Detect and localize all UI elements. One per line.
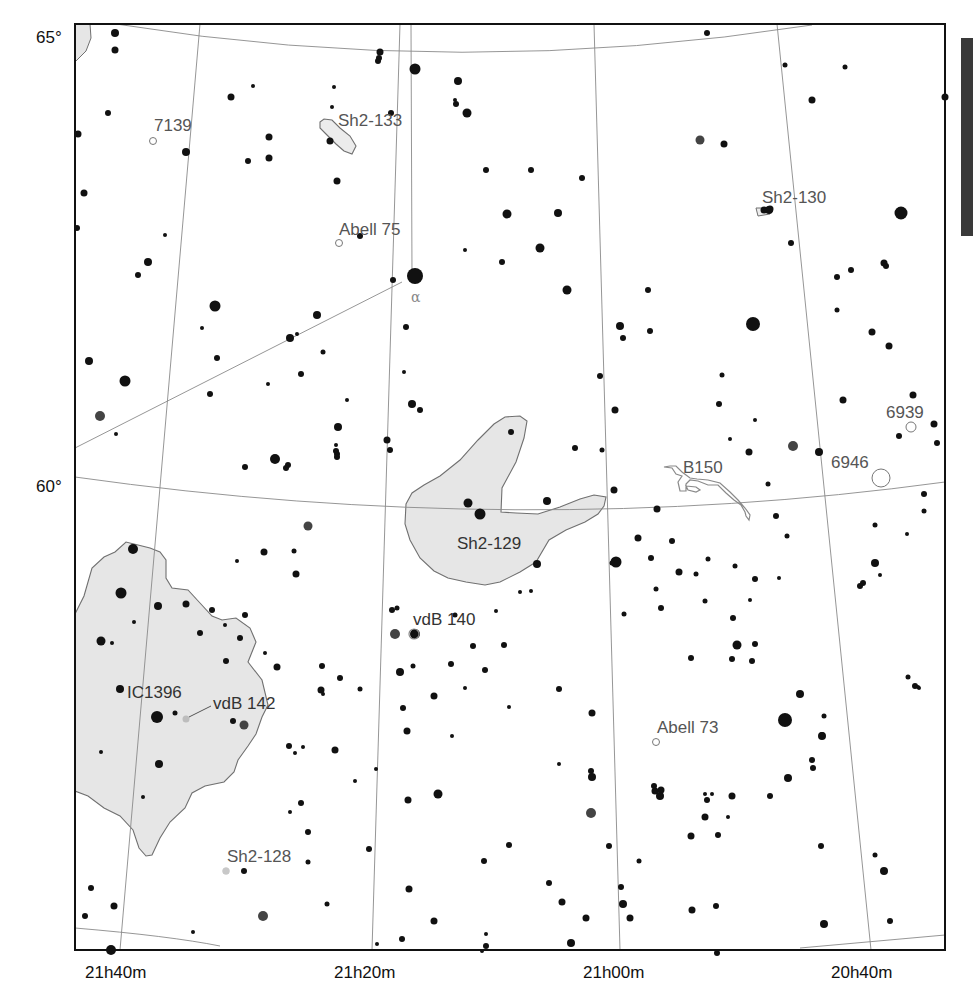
star xyxy=(463,248,467,252)
star xyxy=(200,326,204,330)
star xyxy=(111,29,119,37)
star xyxy=(546,880,552,886)
label-ngc-6939: 6939 xyxy=(886,403,924,422)
star xyxy=(99,750,103,754)
star xyxy=(612,407,619,414)
star xyxy=(616,322,624,330)
star xyxy=(688,833,695,840)
star xyxy=(508,429,514,435)
star xyxy=(533,560,541,568)
star xyxy=(237,635,243,641)
star xyxy=(242,612,248,618)
star xyxy=(377,49,384,56)
star xyxy=(270,454,280,464)
star xyxy=(611,487,618,494)
star xyxy=(676,569,683,576)
star xyxy=(618,884,624,890)
star xyxy=(501,642,507,648)
star xyxy=(767,793,773,799)
star xyxy=(637,859,642,864)
star xyxy=(306,860,311,865)
star xyxy=(110,641,114,645)
star xyxy=(261,549,268,556)
star xyxy=(288,810,292,814)
star xyxy=(258,911,268,921)
star xyxy=(507,705,511,709)
star xyxy=(304,522,313,531)
star xyxy=(895,207,908,220)
star xyxy=(753,418,757,422)
star xyxy=(405,797,412,804)
star xyxy=(128,544,138,554)
star xyxy=(141,795,145,799)
star xyxy=(934,440,940,446)
label-ngc-7139: 7139 xyxy=(154,116,192,135)
star xyxy=(191,930,195,934)
star xyxy=(815,448,823,456)
star xyxy=(400,705,406,711)
star xyxy=(840,397,847,404)
star xyxy=(448,661,454,667)
star xyxy=(240,721,249,730)
star xyxy=(536,244,545,253)
star xyxy=(313,311,321,319)
star xyxy=(689,907,696,914)
vdb-142-marker xyxy=(183,716,190,723)
star xyxy=(627,915,634,922)
star xyxy=(647,328,653,334)
star xyxy=(503,210,512,219)
star xyxy=(494,609,498,613)
star xyxy=(843,65,848,70)
star xyxy=(450,734,454,738)
star xyxy=(274,664,281,671)
star xyxy=(896,433,902,439)
star xyxy=(85,357,93,365)
star xyxy=(820,920,828,928)
star xyxy=(399,936,405,942)
star xyxy=(784,774,792,782)
star xyxy=(214,355,220,361)
star xyxy=(183,601,190,608)
star xyxy=(656,792,664,800)
star xyxy=(883,263,889,269)
star xyxy=(334,423,342,431)
star xyxy=(182,148,190,156)
side-panel-tab[interactable] xyxy=(961,38,973,236)
star xyxy=(319,663,325,669)
star xyxy=(588,773,596,781)
star xyxy=(506,842,512,848)
star xyxy=(470,643,476,649)
star xyxy=(766,482,771,487)
ra-label-20h40m: 20h40m xyxy=(831,963,892,982)
star xyxy=(848,267,854,273)
star xyxy=(610,561,615,566)
star xyxy=(105,110,111,116)
star xyxy=(871,559,879,567)
star xyxy=(464,499,473,508)
star xyxy=(696,136,705,145)
star xyxy=(301,745,305,749)
ra-label-21h40m: 21h40m xyxy=(85,963,146,982)
star xyxy=(241,868,247,874)
star xyxy=(475,509,486,520)
star xyxy=(878,573,882,577)
star xyxy=(746,449,753,456)
star xyxy=(228,94,235,101)
star xyxy=(327,138,334,145)
star xyxy=(499,259,505,265)
star xyxy=(704,797,710,803)
star xyxy=(819,732,825,738)
ra-label-21h00m: 21h00m xyxy=(583,963,644,982)
star xyxy=(572,445,578,451)
star xyxy=(411,664,416,669)
sh2-130-star xyxy=(761,207,768,214)
star xyxy=(796,690,804,698)
star xyxy=(579,175,585,181)
star xyxy=(713,903,719,909)
star xyxy=(482,667,488,673)
star xyxy=(873,853,878,858)
star xyxy=(559,899,566,906)
star xyxy=(332,85,336,89)
star xyxy=(334,178,341,185)
star xyxy=(917,686,921,690)
